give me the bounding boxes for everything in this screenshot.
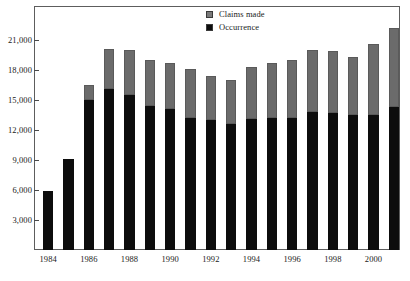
- y-axis-tick-label: 9,000: [12, 156, 32, 165]
- bar-segment-occurrence: [43, 191, 54, 250]
- legend-item-claims-made: Claims made: [206, 9, 265, 20]
- bar-1988: [124, 50, 135, 250]
- bar-1999: [348, 57, 359, 250]
- bar-segment-claims-made: [185, 69, 196, 118]
- bar-1993: [226, 80, 237, 250]
- bar-segment-occurrence: [63, 159, 74, 250]
- bar-1989: [145, 60, 156, 250]
- x-axis-tick-label: 1996: [283, 255, 300, 264]
- bar-segment-claims-made: [348, 57, 359, 115]
- bar-segment-occurrence: [165, 109, 176, 250]
- bar-segment-occurrence: [328, 113, 339, 250]
- bar-segment-occurrence: [348, 115, 359, 250]
- bar-1990: [165, 63, 176, 250]
- bar-1984: [43, 191, 54, 250]
- bar-segment-claims-made: [389, 28, 400, 107]
- bar-segment-claims-made: [226, 80, 237, 124]
- bar-segment-claims-made: [328, 51, 339, 113]
- bar-1994: [246, 67, 257, 250]
- x-axis-tick-label: 1990: [161, 255, 178, 264]
- y-axis-tick-label: 12,000: [8, 126, 32, 135]
- bar-1985: [63, 159, 74, 250]
- bar-segment-claims-made: [165, 63, 176, 109]
- legend-item-label: Occurrence: [219, 22, 259, 33]
- bar-1986: [84, 85, 95, 250]
- bar-2000: [368, 44, 379, 250]
- bar-1987: [104, 49, 115, 250]
- bar-segment-claims-made: [124, 50, 135, 95]
- bar-segment-claims-made: [368, 44, 379, 115]
- chart-legend: Claims madeOccurrence: [206, 9, 265, 35]
- bar-segment-claims-made: [307, 50, 318, 112]
- bar-segment-occurrence: [389, 107, 400, 250]
- x-axis-tick-label: 1986: [80, 255, 97, 264]
- stacked-bar-chart: 3,0006,0009,00012,00015,00018,00021,000 …: [0, 0, 410, 281]
- bar-1998: [328, 51, 339, 250]
- bar-segment-occurrence: [145, 106, 156, 250]
- bar-segment-claims-made: [267, 63, 278, 118]
- bar-segment-claims-made: [206, 76, 217, 120]
- bar-segment-occurrence: [84, 100, 95, 250]
- bar-segment-occurrence: [124, 95, 135, 250]
- y-axis-tick-label: 18,000: [8, 66, 32, 75]
- bar-segment-occurrence: [368, 115, 379, 250]
- bar-1996: [287, 60, 298, 250]
- bar-segment-occurrence: [185, 118, 196, 250]
- bar-segment-claims-made: [287, 60, 298, 118]
- bar-segment-claims-made: [145, 60, 156, 106]
- x-axis-tick-label: 2000: [365, 255, 382, 264]
- legend-item-label: Claims made: [219, 9, 265, 20]
- x-axis-tick-label: 1994: [243, 255, 260, 264]
- y-axis-tick-label: 15,000: [8, 96, 32, 105]
- bar-segment-claims-made: [246, 67, 257, 119]
- bar-1995: [267, 63, 278, 250]
- black-swatch: [206, 24, 213, 31]
- y-axis-tick-label: 21,000: [8, 36, 32, 45]
- y-axis-tick-label: 6,000: [12, 186, 32, 195]
- bar-segment-occurrence: [246, 119, 257, 250]
- x-axis-tick-label: 1998: [324, 255, 341, 264]
- x-axis-tick-label: 1984: [39, 255, 56, 264]
- x-axis-tick-label: 1992: [202, 255, 219, 264]
- bar-1992: [206, 76, 217, 250]
- legend-item-occurrence: Occurrence: [206, 22, 265, 33]
- bar-segment-occurrence: [104, 89, 115, 250]
- bar-1997: [307, 50, 318, 250]
- bar-segment-claims-made: [84, 85, 95, 100]
- gray-swatch: [206, 11, 213, 18]
- y-axis-tick-label: 3,000: [12, 216, 32, 225]
- bar-segment-claims-made: [104, 49, 115, 89]
- bar-segment-occurrence: [307, 112, 318, 250]
- bar-1991: [185, 69, 196, 250]
- bars-layer: [34, 6, 400, 250]
- x-axis-tick-label: 1988: [121, 255, 138, 264]
- bar-segment-occurrence: [287, 118, 298, 250]
- bar-segment-occurrence: [267, 118, 278, 250]
- bar-2001: [389, 28, 400, 250]
- bar-segment-occurrence: [206, 120, 217, 250]
- bar-segment-occurrence: [226, 124, 237, 250]
